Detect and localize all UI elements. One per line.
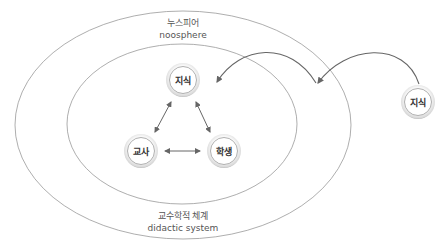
arrow-student-knowledge <box>196 102 210 132</box>
node-label: 지식 <box>169 66 197 94</box>
arc-boundary-to-inner-knowledge <box>217 52 316 83</box>
node-label: 교사 <box>127 137 155 165</box>
didactic-system-label-ko: 교수학적 체계 <box>123 210 243 222</box>
node-student: 학생 <box>207 134 241 168</box>
didactic-system-label: 교수학적 체계 didactic system <box>123 210 243 234</box>
arrow-teacher-knowledge <box>155 102 171 132</box>
node-knowledge-outer: 지식 <box>401 85 435 119</box>
noosphere-label: 누스피어 noosphere <box>123 17 243 41</box>
node-knowledge-inner: 지식 <box>166 63 200 97</box>
node-label: 학생 <box>210 137 238 165</box>
didactic-system-label-en: didactic system <box>123 222 243 234</box>
arc-outer-knowledge-to-boundary <box>318 53 419 84</box>
noosphere-ellipse <box>15 11 351 239</box>
node-label: 지식 <box>404 88 432 116</box>
noosphere-label-ko: 누스피어 <box>123 17 243 29</box>
node-teacher: 교사 <box>124 134 158 168</box>
noosphere-label-en: noosphere <box>123 29 243 41</box>
